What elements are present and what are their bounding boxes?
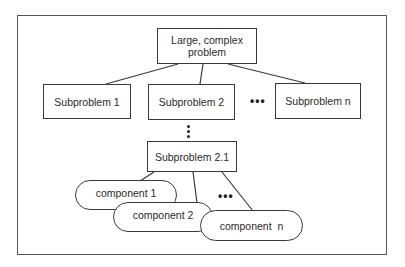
root-problem-label-line1: Large, complex	[171, 34, 243, 46]
connector-root-sub2	[200, 64, 203, 84]
subproblem-n-box: Subproblem n	[275, 83, 361, 119]
subproblem-2-label: Subproblem 2	[159, 96, 224, 108]
component-2-pill: component 2	[113, 202, 213, 232]
component-n-pill: component n	[200, 210, 303, 241]
root-problem-box: Large, complex problem	[157, 28, 257, 64]
connector-root-sub1	[106, 64, 178, 84]
connector-root-subn	[228, 64, 305, 83]
component-1-label: component 1	[96, 187, 157, 199]
subproblem-2-1-box: Subproblem 2.1	[147, 141, 237, 172]
subproblem-2-1-label: Subproblem 2.1	[155, 151, 229, 163]
subproblem-2-box: Subproblem 2	[148, 84, 235, 120]
component-ellipsis: •••	[218, 191, 234, 201]
root-problem-label-line2: problem	[188, 46, 226, 58]
vertical-ellipsis	[187, 125, 191, 138]
subproblem-n-label: Subproblem n	[285, 95, 350, 107]
component-2-label: component 2	[133, 209, 194, 221]
component-n-label: component n	[220, 220, 284, 232]
subproblem-1-label: Subproblem 1	[54, 96, 119, 108]
connector-sub21-comp2	[193, 172, 197, 203]
subproblem-ellipsis: •••	[250, 96, 266, 106]
subproblem-1-box: Subproblem 1	[43, 84, 131, 119]
